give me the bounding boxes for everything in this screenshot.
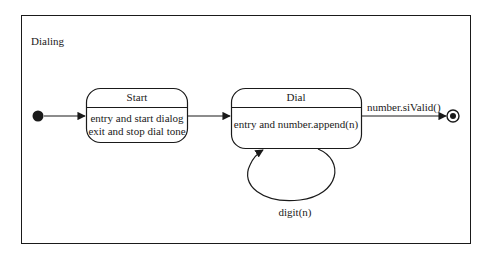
transition-label-digit: digit(n) [279, 206, 312, 219]
transition-dial-self-loop [248, 149, 335, 201]
state-start-name: Start [127, 91, 148, 103]
state-start-activity-entry: entry and start dialog [90, 112, 184, 124]
final-state-icon [447, 110, 459, 122]
state-diagram: Dialing Start entry and start dialog exi… [0, 0, 487, 253]
state-start-activity-exit: exit and stop dial tone [88, 125, 185, 137]
frame-label: Dialing [31, 35, 64, 47]
transition-label-valid: number.siValid() [367, 101, 441, 114]
state-start[interactable]: Start entry and start dialog exit and st… [87, 89, 188, 143]
state-dial[interactable]: Dial entry and number.append(n) [232, 89, 362, 149]
state-dial-name: Dial [287, 91, 306, 103]
initial-state-icon [33, 111, 44, 122]
state-dial-activity-entry: entry and number.append(n) [234, 118, 359, 131]
